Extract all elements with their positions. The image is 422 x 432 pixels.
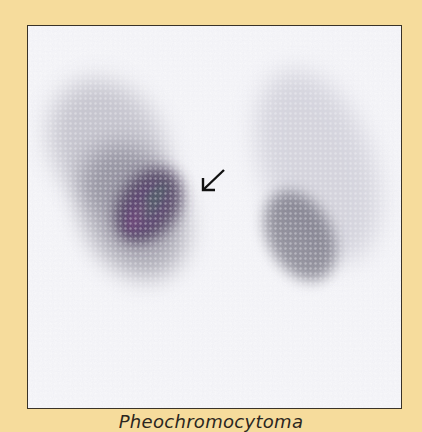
scan-image-frame	[27, 25, 402, 409]
nuclear-scan-image	[28, 26, 401, 408]
arrow-icon	[198, 166, 228, 196]
figure-caption: Pheochromocytoma	[0, 411, 422, 432]
